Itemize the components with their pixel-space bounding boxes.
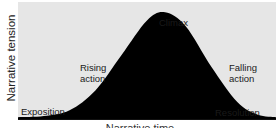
annotation-falling-1: Falling [229, 62, 257, 73]
freytag-pyramid-diagram: Exposition Rising action Climax Falling … [0, 0, 280, 128]
annotation-climax: Climax [159, 17, 188, 28]
annotation-rising-1: Rising [80, 62, 106, 73]
y-axis-label: Narrative tension [5, 3, 17, 113]
annotation-falling-2: action [229, 73, 254, 84]
annotation-exposition: Exposition [21, 106, 65, 117]
x-axis-label: Narrative time [0, 122, 280, 128]
annotation-rising-2: action [80, 73, 105, 84]
annotation-resolution: Resolution [215, 107, 260, 118]
